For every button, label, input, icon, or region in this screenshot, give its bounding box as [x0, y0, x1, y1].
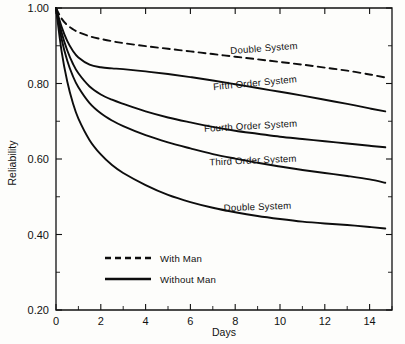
- y-axis-title: Reliability: [6, 140, 18, 186]
- y-tick-label: 1.00: [28, 2, 49, 14]
- curve-label: Fourth Order System: [204, 118, 298, 134]
- chart-canvas: 0.200.400.600.801.00 02468101214 Reliabi…: [0, 0, 405, 344]
- data-curves: [56, 8, 385, 228]
- curve-label: Double System: [230, 40, 298, 56]
- y-tick-label: 0.20: [28, 304, 49, 316]
- x-tick-label: 0: [53, 315, 59, 327]
- y-tick-label: 0.80: [28, 78, 49, 90]
- curve-double-system-without-man: [56, 8, 385, 228]
- curve-label: Fifth Order System: [213, 73, 298, 92]
- x-tick-label: 6: [187, 315, 193, 327]
- y-tick-label: 0.60: [28, 153, 49, 165]
- curve-annotations: Double SystemFifth Order SystemFourth Or…: [204, 40, 298, 213]
- curve-label: Third Order System: [209, 153, 297, 168]
- x-tick-label: 4: [143, 315, 149, 327]
- reliability-chart-figure: 0.200.400.600.801.00 02468101214 Reliabi…: [0, 0, 405, 344]
- x-tick-label: 2: [98, 315, 104, 327]
- y-tick-label: 0.40: [28, 229, 49, 241]
- legend-label: Without Man: [160, 274, 216, 285]
- x-tick-label: 14: [363, 315, 375, 327]
- curve-label: Double System: [223, 200, 291, 213]
- y-axis-tick-labels: 0.200.400.600.801.00: [28, 2, 49, 316]
- chart-legend: With ManWithout Man: [105, 253, 216, 285]
- x-axis-title: Days: [212, 326, 236, 338]
- x-tick-label: 10: [274, 315, 286, 327]
- legend-label: With Man: [160, 253, 202, 264]
- x-tick-label: 12: [319, 315, 331, 327]
